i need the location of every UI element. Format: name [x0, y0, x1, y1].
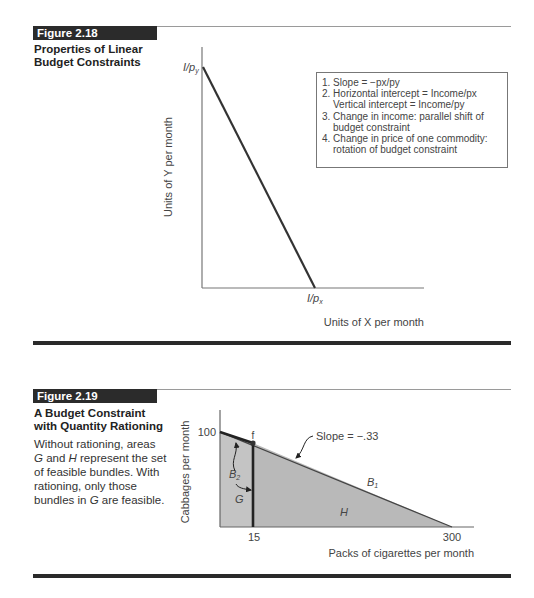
region-g-label: G	[235, 493, 244, 505]
y-tick-100: 100	[198, 426, 216, 438]
b1-label: B1	[367, 476, 378, 489]
x-axis-label: Packs of cigarettes per month	[328, 547, 474, 559]
y-axis-label: Cabbages per month	[179, 421, 191, 524]
figure-2-19-chart: f 100 15 300 Cabbages per month Packs of…	[0, 0, 534, 598]
slope-label: Slope = −.33	[316, 430, 378, 442]
point-f	[250, 440, 255, 445]
slope-arrow	[296, 436, 313, 458]
x-tick-300: 300	[443, 531, 461, 543]
point-f-label: f	[252, 430, 255, 441]
region-h-label: H	[340, 506, 348, 518]
x-tick-15: 15	[248, 531, 260, 543]
figure-2-19-bottom-rule	[33, 574, 511, 578]
